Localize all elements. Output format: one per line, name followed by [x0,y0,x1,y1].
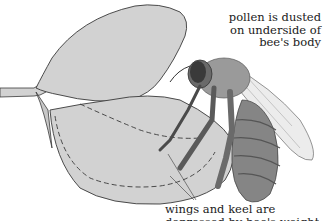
pollen-label-line-3: bee's body [229,36,321,49]
pollen-label-line-1: pollen is dusted [229,11,321,24]
standard-petal [36,5,187,101]
wings-keel-label: wings and keel are depressed by bee's we… [165,203,319,221]
wings-keel [50,96,234,204]
bee-eye [190,61,206,83]
sepal [36,92,52,148]
wings-keel-label-line-1: wings and keel are [165,203,319,216]
pollen-label: pollen is dusted on underside of bee's b… [229,11,321,49]
bee-antenna [170,66,190,82]
wings-keel-label-line-2: depressed by bee's weight [165,216,319,222]
